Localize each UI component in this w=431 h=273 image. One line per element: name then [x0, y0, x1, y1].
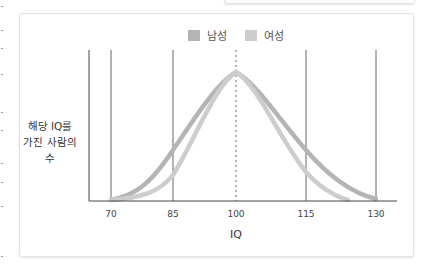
x-tick-85: 85 [167, 209, 178, 219]
male-curve [111, 72, 376, 200]
x-tick-115: 115 [297, 209, 314, 219]
x-axis-label: IQ [230, 228, 242, 241]
x-tick-100: 100 [227, 209, 244, 219]
x-tick-70: 70 [105, 209, 116, 219]
x-tick-130: 130 [367, 209, 384, 219]
plot-area [0, 0, 431, 273]
